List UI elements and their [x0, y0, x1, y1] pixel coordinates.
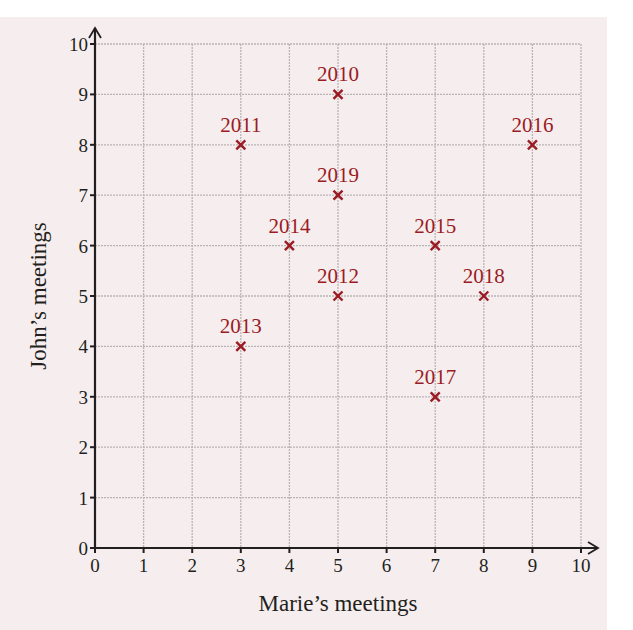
x-tick-label: 10 [572, 555, 591, 576]
y-tick-label: 10 [69, 34, 88, 55]
y-axis-label: John’s meetings [26, 222, 51, 370]
y-tick-label: 7 [79, 185, 89, 206]
data-point: 2016 [511, 113, 553, 150]
x-tick-label: 1 [139, 555, 149, 576]
x-tick-label: 5 [333, 555, 343, 576]
scatter-chart: 012345678910 012345678910 20102011201220… [0, 0, 633, 630]
point-label: 2019 [317, 163, 359, 187]
y-axis-ticks: 012345678910 [69, 34, 95, 559]
data-point: 2012 [317, 264, 359, 301]
point-label: 2018 [463, 264, 505, 288]
data-point: 2011 [220, 113, 261, 150]
point-label: 2011 [220, 113, 261, 137]
y-tick-label: 0 [79, 538, 89, 559]
point-label: 2017 [414, 365, 456, 389]
point-label: 2014 [268, 214, 311, 238]
data-point: 2018 [463, 264, 505, 301]
point-label: 2012 [317, 264, 359, 288]
x-axis-ticks: 012345678910 [90, 548, 590, 576]
x-tick-label: 8 [479, 555, 489, 576]
x-tick-label: 6 [382, 555, 392, 576]
y-tick-label: 6 [79, 236, 89, 257]
point-label: 2016 [511, 113, 553, 137]
y-tick-label: 4 [79, 336, 89, 357]
point-label: 2013 [220, 314, 262, 338]
data-point: 2013 [220, 314, 262, 351]
point-label: 2015 [414, 214, 456, 238]
x-tick-label: 7 [430, 555, 440, 576]
axes [89, 28, 598, 554]
x-tick-label: 9 [528, 555, 538, 576]
data-point: 2015 [414, 214, 456, 251]
y-tick-label: 2 [79, 437, 89, 458]
data-point: 2017 [414, 365, 456, 402]
x-tick-label: 0 [90, 555, 100, 576]
y-tick-label: 3 [79, 387, 89, 408]
x-tick-label: 2 [187, 555, 197, 576]
data-point: 2010 [317, 62, 359, 99]
data-point: 2019 [317, 163, 359, 200]
point-label: 2010 [317, 62, 359, 86]
y-tick-label: 5 [79, 286, 89, 307]
y-tick-label: 1 [79, 488, 89, 509]
x-tick-label: 3 [236, 555, 246, 576]
x-tick-label: 4 [285, 555, 295, 576]
y-tick-label: 9 [79, 84, 89, 105]
data-point: 2014 [268, 214, 311, 251]
y-tick-label: 8 [79, 135, 89, 156]
x-axis-label: Marie’s meetings [258, 591, 417, 616]
